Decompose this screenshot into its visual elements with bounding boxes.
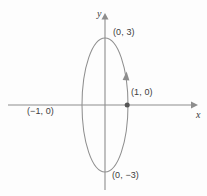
label-point-neg1-0: (−1, 0): [27, 106, 54, 116]
point-dot-1-0: [125, 103, 130, 108]
y-axis-arrowhead: [102, 13, 109, 20]
plot-canvas: [0, 0, 207, 196]
y-axis-label: y: [97, 9, 101, 19]
label-point-1-0: (1, 0): [131, 87, 153, 97]
label-point-0-3: (0, 3): [113, 27, 135, 37]
ellipse-figure: (0, 3) (−1, 0) (1, 0) (0, −3) x y: [0, 0, 207, 196]
direction-arrowhead-icon: [123, 72, 130, 81]
label-point-0-neg3: (0, −3): [112, 170, 139, 180]
x-axis-label: x: [196, 110, 200, 120]
x-axis-arrowhead: [191, 101, 198, 108]
